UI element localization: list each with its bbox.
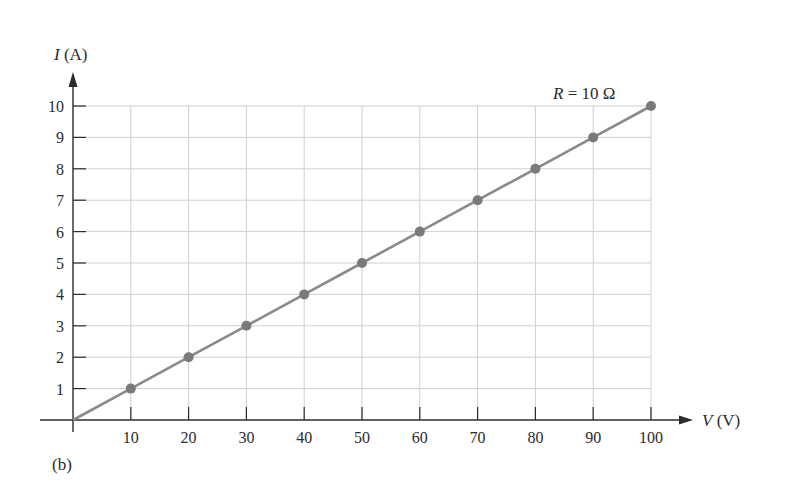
data-point-marker (241, 321, 251, 331)
x-tick-label: 20 (181, 429, 197, 446)
y-tick-label: 2 (56, 349, 64, 366)
x-tick-label: 70 (470, 429, 486, 446)
data-point-marker (357, 258, 367, 268)
x-tick-label: 90 (585, 429, 601, 446)
y-tick-label: 9 (56, 129, 64, 146)
x-tick-label: 50 (354, 429, 370, 446)
x-tick-label: 80 (527, 429, 543, 446)
y-tick-label: 3 (56, 318, 64, 335)
y-axis-label: I (A) (53, 45, 88, 64)
data-series (73, 101, 656, 420)
y-axis-arrow-icon (69, 72, 78, 87)
data-point-marker (299, 289, 309, 299)
data-point-marker (415, 227, 425, 237)
x-tick-label: 10 (123, 429, 139, 446)
y-tick-label: 10 (48, 98, 64, 115)
data-point-marker (646, 101, 656, 111)
y-tick-label: 7 (56, 192, 64, 209)
y-tick-label: 8 (56, 161, 64, 178)
y-tick-label: 5 (56, 255, 64, 272)
series-annotation: R = 10 Ω (552, 84, 615, 103)
data-point-marker (530, 164, 540, 174)
axes (40, 72, 693, 432)
y-tick-label: 4 (56, 286, 64, 303)
x-axis-arrow-icon (679, 416, 693, 425)
data-point-marker (588, 132, 598, 142)
y-tick-label: 1 (56, 381, 64, 398)
x-tick-label: 60 (412, 429, 428, 446)
data-point-marker (126, 384, 136, 394)
x-tick-label: 100 (639, 429, 663, 446)
x-tick-label: 30 (238, 429, 254, 446)
x-tick-label: 40 (296, 429, 312, 446)
data-point-marker (184, 352, 194, 362)
y-tick-label: 6 (56, 224, 64, 241)
chart: 12345678910102030405060708090100 I (A) V… (0, 0, 790, 500)
x-axis-label: V (V) (702, 411, 740, 430)
panel-label: (b) (52, 455, 72, 474)
data-point-marker (473, 195, 483, 205)
